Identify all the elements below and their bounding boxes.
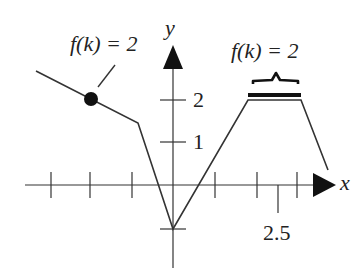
x-axis-label: x: [340, 172, 350, 194]
y-axis-label: y: [165, 17, 175, 39]
x-tick-label-2-5: 2.5: [263, 222, 291, 244]
pointer-line: [98, 65, 115, 87]
x-axis-arrow-icon: [313, 173, 336, 197]
annotation-right: f(k) = 2: [231, 40, 298, 62]
annotation-left: f(k) = 2: [70, 33, 137, 55]
y-tick-label-2: 2: [193, 89, 204, 111]
brace-icon: [253, 73, 298, 84]
diagram-canvas: [0, 0, 363, 275]
point-marker: [84, 92, 98, 106]
y-axis-arrow-icon: [163, 45, 183, 69]
piecewise-function-diagram: f(k) = 2 f(k) = 2 y x 2 1 2.5: [0, 0, 363, 275]
x-ticks: [51, 172, 297, 213]
y-tick-label-1: 1: [193, 131, 204, 153]
